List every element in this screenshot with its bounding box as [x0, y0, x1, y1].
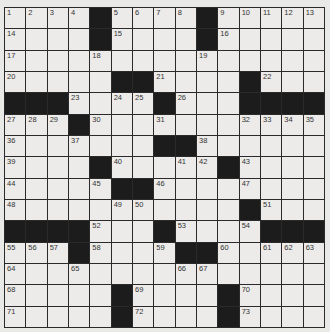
grid-cell[interactable] [90, 285, 110, 305]
grid-cell[interactable] [48, 29, 68, 49]
grid-cell[interactable]: 62 [282, 243, 302, 263]
grid-cell[interactable] [240, 51, 260, 71]
grid-cell[interactable] [197, 200, 217, 220]
grid-cell[interactable] [304, 307, 324, 327]
grid-cell[interactable]: 15 [112, 29, 132, 49]
grid-cell[interactable] [261, 51, 281, 71]
grid-cell[interactable] [154, 51, 174, 71]
grid-cell[interactable] [154, 307, 174, 327]
grid-cell[interactable]: 27 [5, 115, 25, 135]
grid-cell[interactable]: 69 [133, 285, 153, 305]
grid-cell[interactable]: 60 [218, 243, 238, 263]
grid-cell[interactable]: 35 [304, 115, 324, 135]
grid-cell[interactable] [261, 179, 281, 199]
grid-cell[interactable] [282, 136, 302, 156]
grid-cell[interactable] [261, 157, 281, 177]
grid-cell[interactable] [304, 285, 324, 305]
grid-cell[interactable] [282, 51, 302, 71]
grid-cell[interactable] [218, 200, 238, 220]
grid-cell[interactable] [261, 29, 281, 49]
grid-cell[interactable] [26, 264, 46, 284]
grid-cell[interactable] [48, 200, 68, 220]
grid-cell[interactable]: 66 [176, 264, 196, 284]
grid-cell[interactable]: 43 [240, 157, 260, 177]
grid-cell[interactable] [133, 136, 153, 156]
grid-cell[interactable] [69, 72, 89, 92]
grid-cell[interactable] [261, 285, 281, 305]
grid-cell[interactable]: 25 [133, 93, 153, 113]
grid-cell[interactable] [26, 157, 46, 177]
grid-cell[interactable] [304, 72, 324, 92]
grid-cell[interactable] [26, 179, 46, 199]
grid-cell[interactable] [48, 179, 68, 199]
grid-cell[interactable]: 56 [26, 243, 46, 263]
grid-cell[interactable]: 30 [90, 115, 110, 135]
grid-cell[interactable] [112, 264, 132, 284]
grid-cell[interactable] [218, 51, 238, 71]
grid-cell[interactable] [218, 264, 238, 284]
grid-cell[interactable] [282, 307, 302, 327]
grid-cell[interactable]: 4 [69, 8, 89, 28]
grid-cell[interactable] [197, 221, 217, 241]
grid-cell[interactable]: 63 [304, 243, 324, 263]
grid-cell[interactable] [197, 285, 217, 305]
grid-cell[interactable]: 57 [48, 243, 68, 263]
grid-cell[interactable] [261, 136, 281, 156]
grid-cell[interactable] [176, 72, 196, 92]
grid-cell[interactable]: 9 [218, 8, 238, 28]
grid-cell[interactable]: 11 [261, 8, 281, 28]
grid-cell[interactable] [69, 157, 89, 177]
grid-cell[interactable] [26, 285, 46, 305]
grid-cell[interactable]: 50 [133, 200, 153, 220]
grid-cell[interactable] [304, 264, 324, 284]
grid-cell[interactable]: 42 [197, 157, 217, 177]
grid-cell[interactable]: 18 [90, 51, 110, 71]
grid-cell[interactable] [261, 264, 281, 284]
grid-cell[interactable] [48, 51, 68, 71]
grid-cell[interactable] [154, 285, 174, 305]
grid-cell[interactable] [176, 179, 196, 199]
grid-cell[interactable] [304, 200, 324, 220]
grid-cell[interactable] [26, 72, 46, 92]
grid-cell[interactable] [240, 264, 260, 284]
grid-cell[interactable] [48, 285, 68, 305]
grid-cell[interactable] [26, 200, 46, 220]
grid-cell[interactable]: 44 [5, 179, 25, 199]
grid-cell[interactable]: 5 [112, 8, 132, 28]
grid-cell[interactable]: 51 [261, 200, 281, 220]
grid-cell[interactable] [26, 307, 46, 327]
grid-cell[interactable]: 48 [5, 200, 25, 220]
grid-cell[interactable]: 10 [240, 8, 260, 28]
grid-cell[interactable]: 47 [240, 179, 260, 199]
grid-cell[interactable] [133, 29, 153, 49]
grid-cell[interactable]: 36 [5, 136, 25, 156]
grid-cell[interactable] [304, 136, 324, 156]
grid-cell[interactable] [218, 136, 238, 156]
grid-cell[interactable] [304, 29, 324, 49]
grid-cell[interactable]: 41 [176, 157, 196, 177]
grid-cell[interactable] [69, 285, 89, 305]
grid-cell[interactable] [69, 200, 89, 220]
grid-cell[interactable] [133, 51, 153, 71]
grid-cell[interactable] [26, 51, 46, 71]
grid-cell[interactable] [197, 179, 217, 199]
grid-cell[interactable] [112, 136, 132, 156]
grid-cell[interactable]: 19 [197, 51, 217, 71]
grid-cell[interactable] [133, 157, 153, 177]
grid-cell[interactable] [26, 29, 46, 49]
grid-cell[interactable]: 12 [282, 8, 302, 28]
grid-cell[interactable] [69, 29, 89, 49]
grid-cell[interactable] [69, 179, 89, 199]
grid-cell[interactable] [218, 179, 238, 199]
grid-cell[interactable]: 59 [154, 243, 174, 263]
grid-cell[interactable]: 16 [218, 29, 238, 49]
grid-cell[interactable] [90, 93, 110, 113]
grid-cell[interactable]: 70 [240, 285, 260, 305]
grid-cell[interactable]: 23 [69, 93, 89, 113]
grid-cell[interactable] [133, 115, 153, 135]
grid-cell[interactable] [112, 115, 132, 135]
grid-cell[interactable] [48, 157, 68, 177]
grid-cell[interactable]: 65 [69, 264, 89, 284]
grid-cell[interactable]: 6 [133, 8, 153, 28]
grid-cell[interactable] [282, 179, 302, 199]
